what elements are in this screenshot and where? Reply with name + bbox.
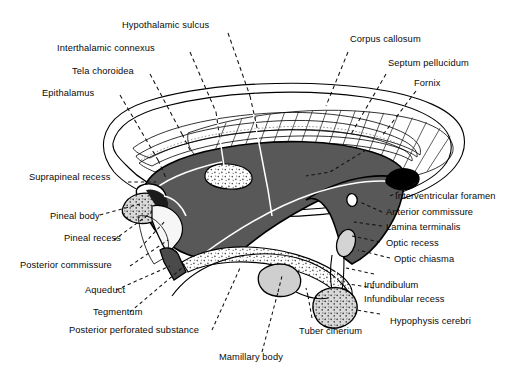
label-interventricular-foramen: Interventricular foramen bbox=[395, 191, 496, 202]
label-tela-choroidea: Tela choroidea bbox=[72, 66, 134, 77]
third-ventricle-dark-region bbox=[143, 142, 406, 264]
label-mamillary-body: Mamillary body bbox=[219, 352, 283, 363]
label-septum-pellucidum: Septum pellucidum bbox=[388, 58, 469, 69]
label-infundibulum: Infundibulum bbox=[364, 280, 418, 291]
label-suprapineal-recess: Suprapineal recess bbox=[29, 172, 110, 183]
label-pineal-recess: Pineal recess bbox=[64, 233, 121, 244]
label-hypophysis-cerebri: Hypophysis cerebri bbox=[390, 316, 471, 327]
label-fornix: Fornix bbox=[414, 78, 440, 89]
label-epithalamus: Epithalamus bbox=[42, 88, 94, 99]
label-corpus-callosum: Corpus callosum bbox=[350, 34, 421, 45]
label-posterior-perforated-substance: Posterior perforated substance bbox=[69, 325, 199, 336]
label-lamina-terminalis: Lamina terminalis bbox=[386, 222, 461, 233]
label-aqueduct: Aqueduct bbox=[85, 285, 125, 296]
mamillary-body-shape bbox=[258, 264, 300, 296]
label-optic-chiasma: Optic chiasma bbox=[394, 254, 454, 265]
label-infundibular-recess: Infundibular recess bbox=[364, 294, 444, 305]
label-posterior-commissure: Posterior commissure bbox=[20, 260, 112, 271]
label-optic-recess: Optic recess bbox=[386, 238, 439, 249]
anatomical-diagram: Hypothalamic sulcus Interthalamic connex… bbox=[0, 0, 527, 382]
label-hypothalamic-sulcus: Hypothalamic sulcus bbox=[122, 20, 209, 31]
label-anterior-commissure: Anterior commissure bbox=[386, 207, 473, 218]
label-tegmentum: Tegmentum bbox=[93, 307, 142, 318]
interthalamic-connexus-oval bbox=[205, 164, 252, 189]
hypophysis-cerebri-shape bbox=[313, 288, 357, 329]
label-interthalamic-connexus: Interthalamic connexus bbox=[57, 43, 155, 54]
label-tuber-cinerium: Tuber cinerium bbox=[299, 326, 362, 337]
label-pineal-body: Pineal body bbox=[50, 211, 100, 222]
